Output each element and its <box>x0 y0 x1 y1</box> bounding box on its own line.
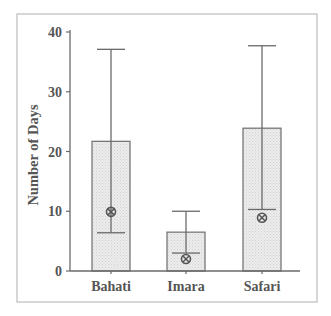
x-category-label: Imara <box>167 279 204 294</box>
x-category-label: Bahati <box>91 279 131 294</box>
x-category-label: Safari <box>244 279 281 294</box>
y-axis-title: Number of Days <box>25 104 41 206</box>
y-tick-label: 40 <box>48 25 62 40</box>
y-tick-label: 0 <box>55 264 62 279</box>
y-tick-label: 10 <box>48 204 62 219</box>
y-tick-label: 30 <box>48 85 62 100</box>
bar-chart: 010203040 BahatiImaraSafari Number of Da… <box>0 0 331 316</box>
y-tick-label: 20 <box>48 145 62 160</box>
